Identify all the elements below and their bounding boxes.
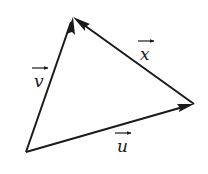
vector-u-line [26,105,190,152]
label-u-text: u [117,136,128,156]
vector-triangle-diagram: v x u [0,0,208,174]
vector-v-line [26,22,71,152]
label-x-text: x [140,44,150,64]
label-x: x [138,41,154,64]
label-u: u [115,133,131,156]
vector-x-arrowhead-icon [73,17,90,31]
label-v: v [32,68,48,91]
vector-x-line [77,20,194,104]
vector-v-arrowhead-icon [66,17,75,35]
label-v-text: v [34,71,44,91]
